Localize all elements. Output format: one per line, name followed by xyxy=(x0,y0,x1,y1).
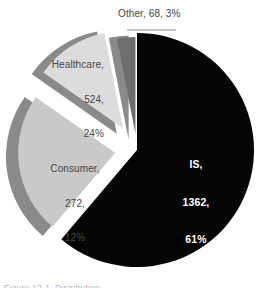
slice-label-consumer-line3: 12% xyxy=(32,232,118,244)
slice-label-healthcare-line1: Healthcare, xyxy=(18,59,104,71)
slice-label-consumer-line1: Consumer, xyxy=(32,163,118,175)
slice-label-other-text: Other, 68, 3% xyxy=(118,8,180,19)
slice-label-consumer-line2: 272, xyxy=(32,198,118,210)
slice-label-consumer: Consumer, 272, 12% xyxy=(32,140,118,267)
slice-label-healthcare-line3: 24% xyxy=(18,128,104,140)
slice-label-is-line3: 61% xyxy=(168,233,224,246)
slice-label-is-line1: IS, xyxy=(168,158,224,171)
slice-label-is-line2: 1362, xyxy=(168,196,224,209)
slice-label-other: Other, 68, 3% xyxy=(118,8,180,20)
figure-caption-clipped: Figure 12-1 Distribution xyxy=(4,283,184,288)
slice-label-healthcare-line2: 524, xyxy=(18,94,104,106)
slice-label-is: IS, 1362, 61% xyxy=(168,133,224,271)
pie-chart: Other, 68, 3% Healthcare, 524, 24% Consu… xyxy=(0,0,266,288)
